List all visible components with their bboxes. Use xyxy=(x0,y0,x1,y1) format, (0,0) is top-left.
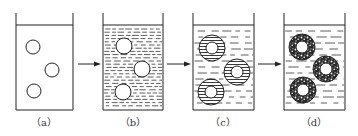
panel-label-d: （d） xyxy=(294,114,334,129)
speckled-ring xyxy=(313,56,339,82)
panel-label-c: （c） xyxy=(203,114,243,129)
particle xyxy=(115,84,131,100)
beaker-d xyxy=(284,13,352,110)
arrow-right-icon xyxy=(258,62,282,67)
speckled-ring xyxy=(290,77,316,103)
particle xyxy=(134,61,150,77)
particle xyxy=(116,38,132,54)
panel-label-b: （b） xyxy=(113,114,153,129)
particle xyxy=(27,84,41,98)
beaker-b xyxy=(103,13,168,110)
beaker-a xyxy=(16,13,73,110)
arrow-right-icon xyxy=(167,62,191,67)
arrow-right-icon xyxy=(78,62,101,67)
striped-ring xyxy=(199,35,225,61)
speckled-ring xyxy=(289,34,315,60)
particle xyxy=(45,63,59,77)
striped-ring xyxy=(224,59,250,85)
striped-ring xyxy=(198,79,224,105)
particle xyxy=(26,40,40,54)
panel-label-a: （a） xyxy=(24,114,64,129)
beaker-c xyxy=(193,13,260,110)
